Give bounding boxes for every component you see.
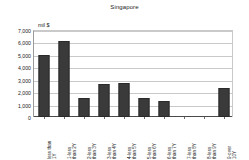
bar-slot	[134, 31, 154, 117]
x-axis-tick-label: 4-lessthan 5Y	[127, 119, 138, 159]
bar[interactable]	[139, 98, 150, 117]
bar-slot	[154, 31, 174, 117]
bar[interactable]	[79, 98, 90, 117]
x-axis-tick-label: 8-lessthan 9Y	[207, 119, 218, 159]
bar-slot	[194, 31, 214, 117]
bar[interactable]	[99, 84, 110, 117]
x-axis-tick-label: 5-lessthan 6Y	[147, 119, 158, 159]
bar-slot	[34, 31, 54, 117]
bar[interactable]	[159, 101, 170, 117]
bar-chart: Singapore mil $ 7,0006,0005,0004,0003,00…	[0, 0, 249, 160]
y-axis-tick-label: 0	[28, 115, 31, 121]
x-axis-tick-label: 1-lessthan 2Y	[67, 119, 78, 159]
bar[interactable]	[119, 83, 130, 117]
bar-slot	[94, 31, 114, 117]
x-axis-tick-label: 6-lessthan 7Y	[167, 119, 178, 159]
plot-area: 7,0006,0005,0004,0003,0002,0001,0000	[33, 30, 233, 117]
bars-layer	[34, 31, 232, 117]
y-axis-tick-label: 1,000	[18, 103, 31, 109]
x-axis-tick-label: 7-lessthan 8Y	[187, 119, 198, 159]
x-axis-labels: less than1Y1-lessthan 2Y2-lessthan 3Y3-l…	[33, 119, 233, 160]
y-axis-tick-label: 2,000	[18, 90, 31, 96]
bar[interactable]	[59, 41, 70, 117]
y-axis-tick-label: 6,000	[18, 40, 31, 46]
x-axis-tick-label: 2-lessthan 3Y	[87, 119, 98, 159]
y-axis-tick-label: 7,000	[18, 28, 31, 34]
bar-slot	[214, 31, 234, 117]
y-axis-tick-label: 5,000	[18, 53, 31, 59]
unit-label: mil $	[38, 22, 50, 28]
bar-slot	[74, 31, 94, 117]
bar[interactable]	[219, 88, 230, 117]
x-axis-tick-label: less than1Y	[47, 119, 58, 159]
bar-slot	[174, 31, 194, 117]
bar-slot	[114, 31, 134, 117]
bar-slot	[54, 31, 74, 117]
y-axis-tick-label: 4,000	[18, 65, 31, 71]
x-axis-tick-label: 9-over10Y	[227, 119, 238, 159]
bar[interactable]	[39, 55, 50, 117]
y-axis-tick-label: 3,000	[18, 78, 31, 84]
x-axis-tick-label: 3-lessthan 4Y	[107, 119, 118, 159]
chart-title: Singapore	[0, 4, 249, 10]
